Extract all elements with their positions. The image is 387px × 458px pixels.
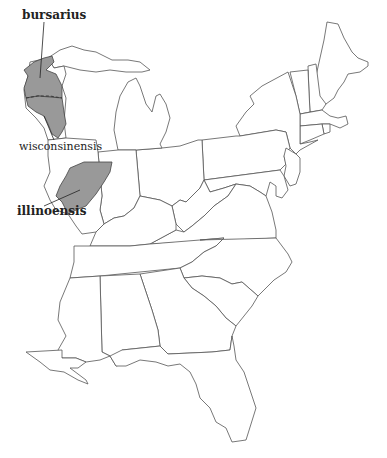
label-bursarius: bursarius (22, 8, 86, 22)
state-maine (314, 22, 368, 108)
range-areas (24, 56, 112, 214)
label-wisconsinensis: wisconsinensis (19, 140, 102, 153)
state-outlines (24, 22, 368, 442)
state-michigan-lower (114, 78, 170, 150)
eastern-us-map (0, 0, 387, 458)
state-connecticut (300, 124, 324, 144)
label-illinoensis: illinoensis (17, 204, 86, 218)
state-new-jersey (284, 148, 300, 186)
